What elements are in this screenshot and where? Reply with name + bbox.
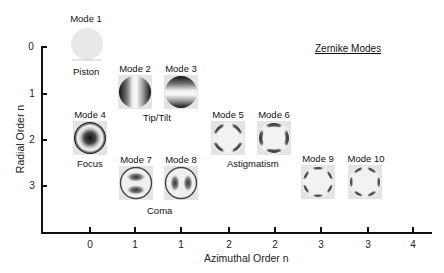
y-tick-label-2: 2 (25, 134, 39, 145)
x-tick-0 (89, 227, 91, 233)
x-tick-1 (134, 227, 136, 233)
mode-10-trefoil-image (348, 165, 382, 199)
y-tick-1 (41, 93, 47, 95)
x-tick-label-3: 2 (222, 239, 236, 250)
group-label-piston: Piston (73, 66, 99, 77)
mode-10-label: Mode 10 (346, 153, 386, 164)
mode-2-label: Mode 2 (115, 63, 155, 74)
mode-7-coma-image (119, 166, 153, 200)
mode-6-astigmatism-image (257, 121, 291, 155)
mode-4-label: Mode 4 (70, 109, 110, 120)
x-tick-label-7: 4 (406, 239, 420, 250)
mode-2-tilt-image (118, 75, 152, 109)
y-tick-2 (41, 139, 47, 141)
mode-1-piston-image (70, 27, 104, 61)
mode-6-label: Mode 6 (254, 109, 294, 120)
mode-9-label: Mode 9 (298, 153, 338, 164)
x-tick-2 (180, 227, 182, 233)
mode-8-label: Mode 8 (161, 154, 201, 165)
mode-9-trefoil-image (301, 165, 335, 199)
x-tick-6 (367, 227, 369, 233)
x-tick-label-2: 1 (174, 239, 188, 250)
x-tick-4 (274, 227, 276, 233)
x-tick-7 (412, 227, 414, 233)
diagram-title: Zernike Modes (315, 43, 381, 54)
x-tick-label-5: 3 (314, 239, 328, 250)
y-axis-title: Radial Order n (14, 99, 26, 179)
mode-4-focus-image (73, 121, 107, 155)
group-label-astigmatism: Astigmatism (227, 158, 279, 169)
group-label-coma: Coma (147, 205, 172, 216)
x-tick-label-0: 0 (83, 239, 97, 250)
mode-3-tip-image (164, 75, 198, 109)
y-tick-label-1: 1 (25, 88, 39, 99)
mode-5-label: Mode 5 (208, 109, 248, 120)
x-tick-label-6: 3 (361, 239, 375, 250)
group-label-tiptilt: Tip/Tilt (143, 112, 171, 123)
mode-5-astigmatism-image (211, 121, 245, 155)
x-axis-line (41, 232, 432, 234)
mode-7-label: Mode 7 (116, 154, 156, 165)
y-tick-label-0: 0 (24, 41, 38, 52)
mode-1-label: Mode 1 (66, 13, 106, 24)
x-axis-title: Azimuthal Order n (204, 252, 289, 264)
y-tick-3 (41, 185, 47, 187)
x-tick-3 (228, 227, 230, 233)
group-label-focus: Focus (77, 158, 103, 169)
x-tick-5 (320, 227, 322, 233)
y-tick-label-3: 3 (25, 180, 39, 191)
mode-3-label: Mode 3 (161, 63, 201, 74)
mode-8-coma-image (164, 166, 198, 200)
x-tick-label-1: 1 (128, 239, 142, 250)
y-tick-0 (41, 46, 47, 48)
x-tick-label-4: 2 (268, 239, 282, 250)
